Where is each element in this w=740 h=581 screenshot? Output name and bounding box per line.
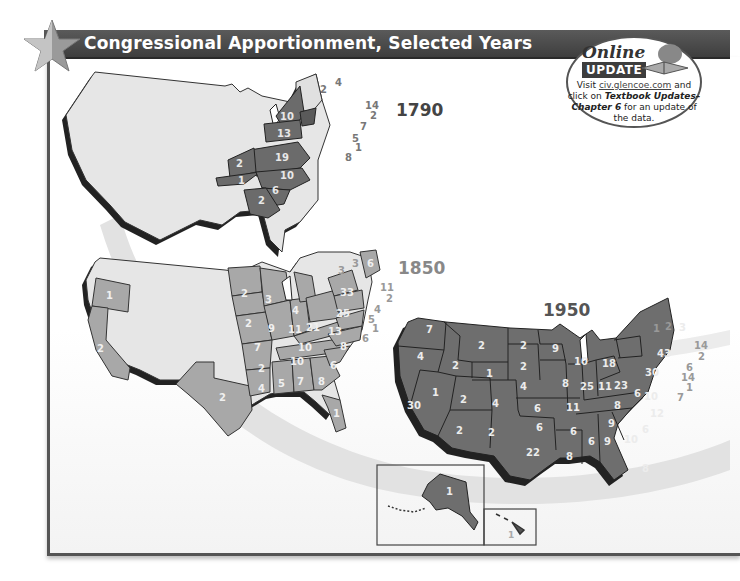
state-label: 8 [562,378,569,389]
state-label: 11 [566,402,580,413]
state-label-alaska: 1 [446,486,453,497]
callout-label: 7 [677,392,684,403]
state-label: 2 [520,340,527,351]
state-label: 8 [614,400,621,411]
state-label: 30 [645,367,659,378]
state-label: 8 [642,463,649,474]
state-label: 2 [452,360,459,371]
state-label: 4 [520,381,527,392]
online-update-badge[interactable]: Online UPDATE Visit civ.glencoe.com and … [566,36,702,128]
state-label: 9 [608,418,615,429]
state-label: 9 [604,436,611,447]
state-label: 1 [432,387,439,398]
state-label: 2 [456,425,463,436]
state-label: 6 [570,426,577,437]
state-label: 4 [417,351,424,362]
state-label: 8 [566,451,573,462]
online-text-prefix: Visit [577,80,599,90]
state-label: 6 [634,388,641,399]
update-heading: UPDATE [582,62,646,78]
state-label: 4 [492,398,499,409]
state-label: 9 [552,343,559,354]
state-label: 10 [644,391,658,402]
glencoe-link[interactable]: civ.glencoe.com [599,80,671,90]
callout-label: 2 [665,321,672,332]
online-text-suffix: for an update of the data. [614,102,697,123]
callout-label: 14 [694,340,708,351]
state-label: 23 [614,380,628,391]
state-label: 7 [426,324,433,335]
state-label: 2 [460,394,467,405]
callout-label: 2 [698,351,705,362]
state-label: 10 [574,356,588,367]
state-label: 10 [624,434,638,445]
state-label: 11 [598,381,612,392]
state-label: 30 [407,400,421,411]
state-label: 6 [588,436,595,447]
state-label: 6 [536,422,543,433]
callout-label: 1 [686,382,693,393]
callout-label: 1 [653,323,660,334]
state-label: 18 [602,358,616,369]
online-update-text: Visit civ.glencoe.com and click on Textb… [566,80,702,124]
state-label: 25 [580,381,594,392]
state-label-hawaii: 1 [508,530,514,540]
state-label: 6 [534,403,541,414]
state-label: 2 [520,361,527,372]
online-heading: Online [582,42,645,62]
book-icon [640,42,690,76]
state-label: 43 [657,348,671,359]
year-label-1950: 1950 [543,300,590,320]
state-label: 22 [526,447,540,458]
state-label: 1 [486,368,493,379]
state-label: 2 [478,340,485,351]
state-label: 12 [650,408,664,419]
state-label: 2 [488,427,495,438]
state-label: 6 [642,424,649,435]
state-label: 3 [679,322,686,333]
